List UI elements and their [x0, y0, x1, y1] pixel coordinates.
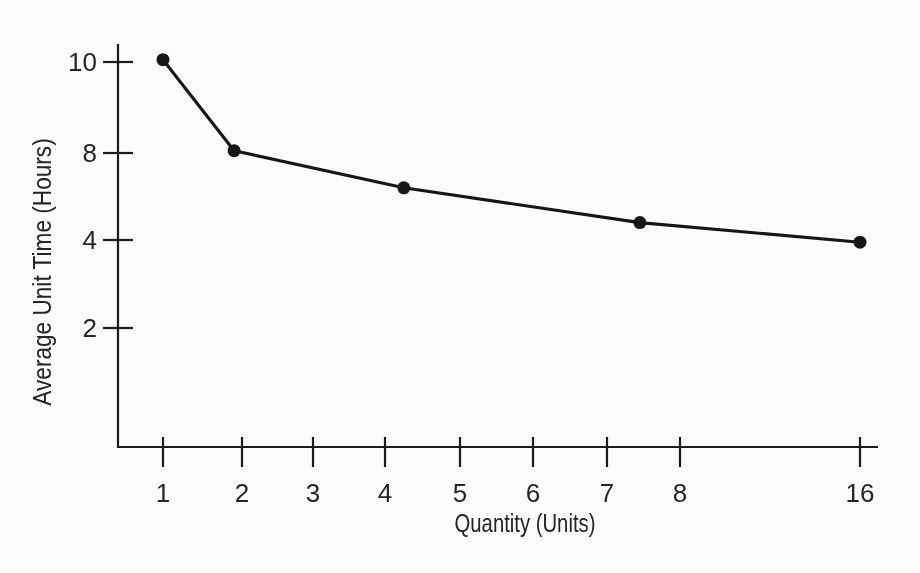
x-tick-label: 6 [526, 478, 540, 508]
x-axis-title: Quantity (Units) [435, 508, 616, 539]
y-axis-title: Average Unit Time (Hours) [27, 118, 58, 425]
x-tick-label: 3 [306, 478, 320, 508]
y-tick-label: 4 [83, 225, 97, 255]
data-point-marker [633, 216, 646, 229]
scanned-learning-curve-page: 123456781610842 Average Unit Time (Hours… [0, 0, 920, 573]
x-axis-title-text: Quantity (Units) [455, 508, 596, 539]
y-tick-label: 2 [83, 313, 97, 343]
x-tick-label: 16 [846, 478, 875, 508]
x-tick-label: 2 [235, 478, 249, 508]
data-point-marker [854, 236, 867, 249]
x-tick-label: 5 [453, 478, 467, 508]
x-tick-label: 7 [600, 478, 614, 508]
data-point-marker [157, 53, 170, 66]
x-tick-label: 1 [156, 478, 170, 508]
y-tick-label: 8 [83, 138, 97, 168]
y-tick-label: 10 [68, 47, 97, 77]
x-tick-label: 4 [378, 478, 392, 508]
data-point-marker [397, 181, 410, 194]
x-tick-label: 8 [673, 478, 687, 508]
learning-curve-chart: 123456781610842 [0, 0, 920, 573]
y-axis-title-text: Average Unit Time (Hours) [27, 138, 58, 405]
data-line [163, 60, 860, 243]
data-point-marker [228, 144, 241, 157]
